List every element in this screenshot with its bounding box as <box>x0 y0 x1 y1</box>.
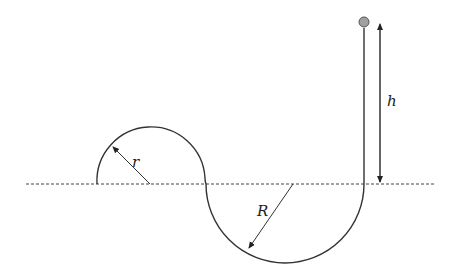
small-radius-label: r <box>132 153 140 171</box>
large-radius-arrow <box>249 184 293 248</box>
track <box>97 28 364 263</box>
diagram-canvas: h r R <box>0 0 456 272</box>
height-label: h <box>387 92 397 110</box>
ball <box>359 17 369 27</box>
large-radius-label: R <box>256 202 268 220</box>
